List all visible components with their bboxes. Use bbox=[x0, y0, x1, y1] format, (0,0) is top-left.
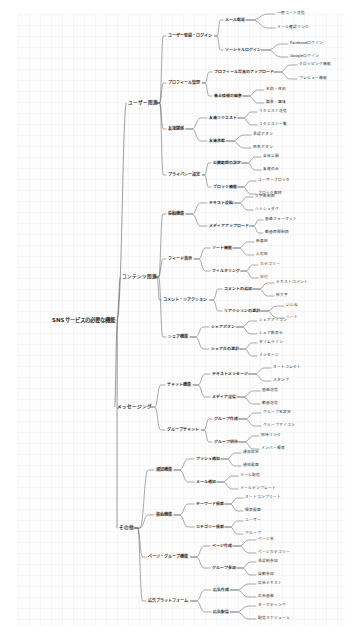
mindmap-node-depth-4[interactable]: ハート bbox=[286, 316, 298, 320]
mindmap-node-depth-2[interactable]: チャット機能 bbox=[167, 383, 191, 387]
mindmap-node-depth-2[interactable]: プライバシー設定 bbox=[168, 173, 200, 177]
mindmap-node-depth-3[interactable]: シェアボタン bbox=[211, 325, 235, 329]
mindmap-node-depth-3[interactable]: プッシュ通知 bbox=[196, 457, 220, 461]
mindmap-node-depth-3[interactable]: ページ作成 bbox=[212, 544, 232, 548]
mindmap-node-depth-4[interactable]: グループアイコン bbox=[263, 424, 295, 428]
mindmap-node-depth-3[interactable]: ソーシャルログイン bbox=[225, 48, 261, 52]
mindmap-node-depth-3[interactable]: キーワード検索 bbox=[196, 502, 224, 506]
mindmap-node-depth-2[interactable]: 広告プラットフォーム bbox=[148, 599, 188, 603]
mindmap-node-depth-3[interactable]: カテゴリー検索 bbox=[196, 525, 224, 529]
mindmap-node-depth-1[interactable]: ユーザー関連 bbox=[128, 101, 158, 106]
mindmap-node-depth-1[interactable]: メッセージング bbox=[117, 405, 152, 410]
mindmap-node-depth-4[interactable]: 絵文字 bbox=[276, 294, 288, 298]
mindmap-node-depth-4[interactable]: タイムライン bbox=[259, 341, 283, 345]
mindmap-node-depth-2[interactable]: コメント・リアクション bbox=[163, 298, 207, 302]
mindmap-node-depth-2[interactable]: ページ・グループ機能 bbox=[148, 555, 188, 559]
mindmap-node-depth-4[interactable]: ユーザーブロック bbox=[258, 179, 290, 183]
mindmap-node-depth-3[interactable]: グループ作成 bbox=[214, 417, 238, 421]
mindmap-node-depth-4[interactable]: メール確認リンク bbox=[277, 26, 309, 30]
mindmap-node-depth-3[interactable]: 広告配信 bbox=[213, 610, 229, 614]
mindmap-node-depth-4[interactable]: 友達のみ bbox=[263, 168, 279, 172]
mindmap-node-depth-3[interactable]: メディア送信 bbox=[212, 395, 236, 399]
mindmap-node-depth-3[interactable]: メディアアップロード bbox=[209, 224, 249, 228]
mindmap-node-depth-4[interactable]: ユーザー bbox=[245, 519, 261, 523]
mindmap-node-depth-2[interactable]: ユーザー登録・ログイン bbox=[168, 34, 212, 38]
mindmap-node-depth-4[interactable]: 配信スケジュール bbox=[258, 617, 290, 621]
mindmap-node-depth-2[interactable]: 通知機能 bbox=[156, 468, 172, 472]
mindmap-node-depth-3[interactable]: グループ参加 bbox=[212, 566, 236, 570]
mindmap-node-depth-4[interactable]: スタンプ bbox=[273, 379, 289, 383]
mindmap-node-depth-2[interactable]: プロフィール管理 bbox=[168, 81, 200, 85]
mindmap-node-depth-3[interactable]: テキスト投稿 bbox=[209, 201, 233, 205]
mindmap-node-depth-2[interactable]: フィード表示 bbox=[168, 257, 192, 261]
mindmap-node-depth-4[interactable]: 一時コード送信 bbox=[277, 12, 305, 16]
mindmap-node-depth-4[interactable]: リクエスト送信 bbox=[259, 110, 287, 114]
mindmap-node-depth-3[interactable]: 広告作成 bbox=[213, 588, 229, 592]
mindmap-node-depth-4[interactable]: ターゲティング bbox=[258, 604, 286, 608]
mindmap-node-depth-4[interactable]: 通知履歴 bbox=[243, 464, 259, 468]
mindmap-node-depth-4[interactable]: Facebookログイン bbox=[290, 42, 323, 46]
mindmap-node-depth-4[interactable]: ページ名 bbox=[258, 538, 274, 542]
mindmap-node-depth-3[interactable]: 友達承認 bbox=[209, 139, 225, 143]
mindmap-node-depth-3[interactable]: 公開範囲の設定 bbox=[213, 161, 241, 165]
mindmap-node-depth-4[interactable]: オートコンプリート bbox=[245, 496, 281, 500]
mindmap-node-depth-4[interactable]: メールテンプレート bbox=[240, 487, 276, 491]
mindmap-node-depth-4[interactable]: 全体公開 bbox=[263, 155, 279, 159]
mindmap-node-depth-4[interactable]: 招待リンク bbox=[261, 434, 281, 438]
mindmap-node-depth-4[interactable]: 新着順 bbox=[256, 240, 268, 244]
mindmap-node-depth-2[interactable]: 検索機能 bbox=[156, 513, 172, 517]
mindmap-node-depth-4[interactable]: グループ名設定 bbox=[263, 411, 291, 415]
mindmap-node-depth-2[interactable]: 友達関係 bbox=[168, 127, 184, 131]
mindmap-node-depth-3[interactable]: ソート機能 bbox=[212, 246, 232, 250]
mindmap-node-depth-4[interactable]: 広告画像 bbox=[258, 595, 274, 599]
mindmap-node-depth-4[interactable]: 自動参加 bbox=[258, 573, 274, 577]
mindmap-node-depth-3[interactable]: テキストメッセージ bbox=[212, 372, 248, 376]
mindmap-node-depth-4[interactable]: プレビュー機能 bbox=[299, 77, 327, 81]
mindmap-node-depth-4[interactable]: メッセージ bbox=[259, 354, 279, 358]
mindmap-node-depth-4[interactable]: 職業・趣味 bbox=[266, 101, 286, 105]
mindmap-node-depth-4[interactable]: 承認ボタン bbox=[253, 133, 273, 137]
mindmap-node-depth-4[interactable]: いいね bbox=[286, 304, 298, 308]
mindmap-node-depth-4[interactable]: 人気順 bbox=[256, 253, 268, 257]
mindmap-node-depth-4[interactable]: 日付 bbox=[260, 276, 268, 280]
mindmap-node-depth-4[interactable]: Googleログイン bbox=[290, 55, 319, 59]
mindmap-node-depth-3[interactable]: グループ招待 bbox=[214, 440, 238, 444]
mindmap-node-depth-4[interactable]: ページカテゴリー bbox=[258, 551, 290, 555]
mindmap-node-depth-3[interactable]: シェア先の選択 bbox=[211, 347, 239, 351]
mindmap-node-depth-3[interactable]: 基本情報の編集 bbox=[214, 94, 242, 98]
mindmap-node-depth-4[interactable]: 通知設定 bbox=[243, 451, 259, 455]
mindmap-node-depth-4[interactable]: シェア数表示 bbox=[259, 332, 283, 336]
mindmap-node-depth-4[interactable]: メンバー検索 bbox=[261, 447, 285, 451]
mindmap-node-depth-4[interactable]: 文字数制限 bbox=[255, 195, 275, 199]
mindmap-node-depth-4[interactable]: 拒否ボタン bbox=[253, 146, 273, 150]
mindmap-node-depth-4[interactable]: メール配信 bbox=[240, 474, 260, 478]
mindmap-node-depth-3[interactable]: フィルタリング bbox=[212, 269, 240, 273]
mindmap-node-depth-4[interactable]: 検索履歴 bbox=[245, 509, 261, 513]
mindmap-node-depth-3[interactable]: ブロック機能 bbox=[213, 185, 237, 189]
mindmap-node-depth-4[interactable]: 広告テキスト bbox=[258, 582, 282, 586]
mindmap-node-depth-4[interactable]: テキストコメント bbox=[276, 281, 308, 285]
mindmap-node-depth-3[interactable]: コメントの追加 bbox=[224, 287, 252, 291]
mindmap-node-depth-4[interactable]: ハッシュタグ bbox=[255, 208, 279, 212]
mindmap-node-depth-2[interactable]: グループチャット bbox=[167, 428, 199, 432]
mindmap-node-depth-1[interactable]: その他 bbox=[119, 526, 134, 531]
mindmap-node-depth-1[interactable]: コンテンツ関連 bbox=[122, 275, 157, 280]
mindmap-root-node[interactable]: SNSサービスの必要な機能 bbox=[52, 318, 116, 323]
mindmap-node-depth-4[interactable]: オートコレクト bbox=[273, 366, 301, 370]
mindmap-node-depth-3[interactable]: メール通知 bbox=[196, 480, 216, 484]
mindmap-node-depth-3[interactable]: プロフィール写真のアップロード bbox=[214, 70, 274, 74]
mindmap-node-depth-3[interactable]: メール認証 bbox=[225, 18, 245, 22]
mindmap-node-depth-4[interactable]: 動画時間制限 bbox=[265, 231, 289, 235]
mindmap-node-depth-4[interactable]: クロッピング機能 bbox=[299, 63, 331, 67]
mindmap-node-depth-3[interactable]: 友達リクエスト bbox=[209, 116, 237, 120]
mindmap-node-depth-2[interactable]: 投稿機能 bbox=[168, 212, 184, 216]
mindmap-node-depth-4[interactable]: リクエスト一覧 bbox=[259, 123, 287, 127]
mindmap-node-depth-3[interactable]: リアクションの選択 bbox=[224, 309, 260, 313]
mindmap-node-depth-4[interactable]: 承認制参加 bbox=[258, 560, 278, 564]
mindmap-node-depth-4[interactable]: シェアアイコン bbox=[259, 319, 287, 323]
mindmap-node-depth-4[interactable]: 画像送信 bbox=[262, 389, 278, 393]
mindmap-node-depth-4[interactable]: グループ bbox=[245, 532, 261, 536]
mindmap-node-depth-4[interactable]: 動画送信 bbox=[262, 402, 278, 406]
mindmap-node-depth-4[interactable]: カテゴリー bbox=[260, 263, 280, 267]
mindmap-node-depth-2[interactable]: シェア機能 bbox=[168, 335, 188, 339]
